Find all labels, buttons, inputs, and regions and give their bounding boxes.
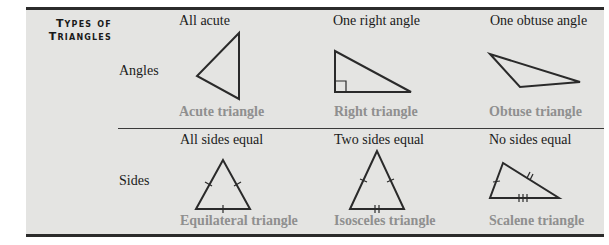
isosceles-triangle-icon	[350, 151, 404, 213]
equilateral-triangle-icon	[196, 160, 250, 213]
triangle-diagrams	[0, 0, 609, 245]
acute-triangle-icon	[197, 33, 239, 99]
scalene-triangle-icon	[490, 163, 559, 202]
right-triangle-icon	[335, 51, 411, 92]
obtuse-triangle-icon	[490, 54, 580, 87]
